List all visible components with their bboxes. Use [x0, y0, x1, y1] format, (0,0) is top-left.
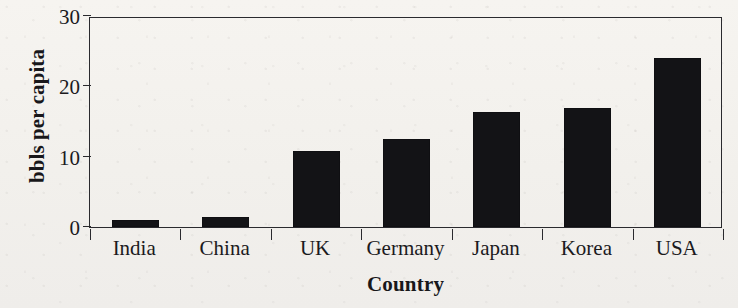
bar	[564, 108, 611, 227]
y-axis-tick-labels: 0102030	[38, 0, 80, 308]
bar	[112, 220, 159, 227]
x-axis-tick-label: Germany	[366, 238, 444, 259]
y-axis-tick	[83, 15, 91, 16]
plot-area	[89, 17, 722, 228]
x-axis-tick	[723, 229, 724, 240]
y-axis-tick-label: 30	[40, 7, 80, 28]
chart-figure: bbls per capita 0102030 IndiaChinaUKGerm…	[0, 0, 738, 308]
y-axis-tick-label: 20	[40, 77, 80, 98]
y-axis-tick-label: 0	[40, 218, 80, 239]
bar	[383, 139, 430, 227]
x-axis-tick-label: USA	[656, 238, 698, 259]
x-axis-tick-label: UK	[300, 238, 330, 259]
x-axis-tick-label: India	[113, 238, 156, 259]
bar	[293, 151, 340, 227]
y-axis-tick	[83, 226, 91, 227]
bar	[473, 112, 520, 227]
y-axis-tick	[83, 156, 91, 157]
x-axis-tick-labels: IndiaChinaUKGermanyJapanKoreaUSA	[89, 238, 722, 268]
bar	[202, 217, 249, 227]
y-axis-tick-label: 10	[40, 147, 80, 168]
x-axis-tick-label: Korea	[561, 238, 612, 259]
x-axis-title: Country	[89, 272, 722, 297]
bar	[654, 58, 701, 228]
y-axis-tick	[83, 85, 91, 86]
x-axis-tick-label: Japan	[472, 238, 520, 259]
x-axis-tick-label: China	[200, 238, 250, 259]
